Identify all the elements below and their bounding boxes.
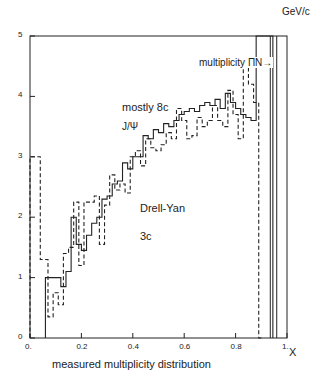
annotation-mostly-8c: mostly 8c [122, 101, 168, 113]
y-tick-label: 5 [18, 30, 22, 39]
x-tick-label: 1. [282, 342, 289, 351]
x-tick-label: 0.8 [231, 342, 242, 351]
y-tick-label: 2 [18, 211, 22, 220]
annotation-drell-yan: Drell-Yan [140, 202, 185, 214]
y-tick-label: 4 [18, 90, 22, 99]
y-tick-label: 0 [18, 332, 22, 341]
y-unit-label: GeV/c [282, 6, 310, 17]
x-axis-symbol: X [289, 346, 296, 358]
multiplicity-limit-lines [270, 36, 276, 338]
x-tick-label: 0.4 [128, 342, 139, 351]
x-axis-title: measured multiplicity distribution [52, 358, 211, 370]
annotation-3c: 3c [140, 230, 152, 242]
annotation-jpsi: J/Ψ [122, 121, 138, 132]
x-tick-label: 0. [25, 342, 32, 351]
y-tick-label: 1 [18, 272, 22, 281]
x-tick-label: 0.6 [179, 342, 190, 351]
x-tick-label: 0.2 [76, 342, 87, 351]
annotation-multiplicity-pin: multiplicity ΠN→ [198, 57, 273, 68]
y-tick-label: 3 [18, 151, 22, 160]
jpsi-histogram-solid [45, 36, 272, 338]
